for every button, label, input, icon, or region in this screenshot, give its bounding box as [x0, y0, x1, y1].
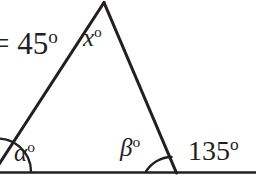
- degree-symbol: o: [27, 138, 35, 155]
- degree-symbol: o: [132, 133, 140, 150]
- exterior-angle-value: 135: [188, 135, 230, 166]
- triangle-right-side: [104, 3, 177, 174]
- right-base-angle-label: βo: [120, 134, 140, 160]
- apex-angle-label: xo: [83, 24, 102, 50]
- right-base-angle-variable: β: [120, 134, 132, 161]
- apex-angle-variable: x: [83, 24, 94, 51]
- known-angle-label: = 45o: [0, 27, 58, 59]
- degree-symbol: o: [230, 135, 239, 154]
- left-base-angle-label: αo: [14, 139, 35, 165]
- beta-angle-arc: [146, 157, 172, 172]
- degree-symbol: o: [94, 23, 102, 40]
- known-angle-value: = 45: [0, 26, 48, 61]
- degree-symbol: o: [48, 26, 58, 47]
- exterior-angle-label: 135o: [188, 136, 239, 165]
- geometry-figure: = 45o xo αo βo 135o: [0, 0, 256, 188]
- left-base-angle-variable: α: [14, 139, 27, 166]
